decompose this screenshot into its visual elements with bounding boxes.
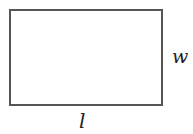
rectangle-shape [9, 9, 163, 106]
width-label: w [172, 47, 188, 66]
length-label: l [79, 111, 85, 131]
